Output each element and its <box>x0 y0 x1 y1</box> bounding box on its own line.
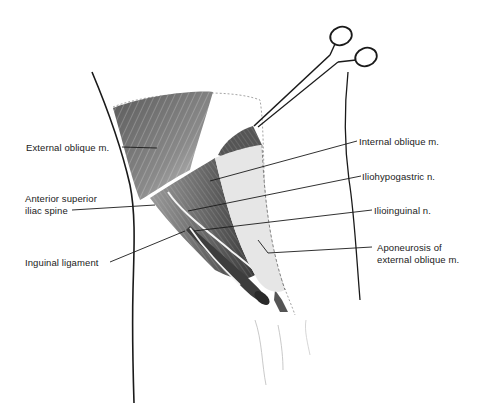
label-iliohypogastric: Iliohypogastric n. <box>362 171 435 183</box>
label-ilioinguinal: Ilioinguinal n. <box>374 205 431 217</box>
label-internal-oblique: Internal oblique m. <box>359 136 439 148</box>
label-asis-line2: iliac spine <box>25 205 68 217</box>
label-inguinal-ligament: Inguinal ligament <box>25 257 99 269</box>
label-asis-line1: Anterior superior <box>25 193 97 205</box>
right-body-contour <box>345 72 360 300</box>
label-external-oblique: External oblique m. <box>26 142 109 154</box>
label-aponeurosis-line1: Aponeurosis of <box>377 242 442 254</box>
hemostat-clamp-icon <box>254 24 379 127</box>
anatomy-figure: External oblique m. Anterior superior il… <box>0 0 492 403</box>
label-aponeurosis-line2: external oblique m. <box>377 254 459 266</box>
